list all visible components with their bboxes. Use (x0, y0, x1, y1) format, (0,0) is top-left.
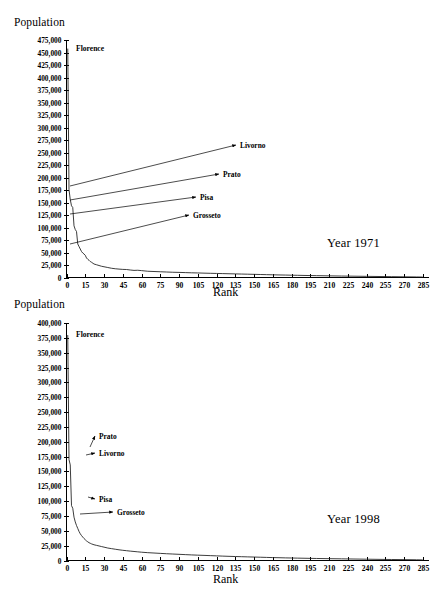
x-tick-label: 255 (380, 564, 392, 573)
x-tick-label: 60 (139, 564, 147, 573)
data-curve-1998 (68, 335, 423, 560)
x-tick-label: 165 (268, 281, 280, 290)
y-tick-label: 325,000 (37, 364, 61, 373)
y-tick-label: 225,000 (37, 161, 61, 170)
y-tick-label: 400,000 (37, 74, 61, 83)
x-tick-label: 225 (343, 564, 355, 573)
annotation-label-prato: Prato (99, 432, 117, 441)
annotation-leader-livorno (86, 453, 95, 455)
x-tick-label: 0 (66, 564, 70, 573)
y-tick-label: 275,000 (37, 136, 61, 145)
x-tick-label: 90 (176, 564, 184, 573)
x-tick-label: 90 (176, 281, 184, 290)
annotation-label-grosseto: Grosseto (117, 508, 145, 517)
y-tick-label: 50,000 (41, 527, 62, 536)
x-tick-label: 180 (287, 564, 299, 573)
y-tick-label: 375,000 (37, 86, 61, 95)
y-tick-label: 225,000 (37, 423, 61, 432)
annotation-leader-prato (90, 436, 95, 447)
y-axis-ticks: 025,00050,00075,000100,000125,000150,000… (37, 36, 69, 283)
y-tick-label: 25,000 (41, 261, 62, 270)
y-tick-label: 100,000 (37, 224, 61, 233)
x-tick-label: 15 (82, 281, 90, 290)
annotation-leader-grosseto (80, 512, 113, 514)
y-tick-label: 125,000 (37, 482, 61, 491)
florence-label: Florence (76, 44, 105, 53)
x-tick-label: 165 (268, 564, 280, 573)
x-tick-label: 60 (139, 281, 147, 290)
x-tick-label: 75 (157, 564, 165, 573)
y-tick-label: 50,000 (41, 249, 62, 258)
plot-area-1971: 025,00050,00075,000100,000125,000150,000… (0, 0, 437, 302)
x-tick-label: 105 (193, 564, 205, 573)
annotation-group-1971: LivornoPratoPisaGrosseto (70, 141, 266, 244)
y-tick-label: 425,000 (37, 61, 61, 70)
y-tick-label: 300,000 (37, 378, 61, 387)
x-tick-label: 135 (230, 564, 242, 573)
x-tick-label: 180 (287, 281, 299, 290)
figure-population-rank: Population Year 1971 Rank 025,00050,0007… (0, 0, 437, 602)
y-tick-label: 25,000 (41, 542, 62, 551)
x-tick-label: 30 (101, 564, 109, 573)
annotation-label-livorno: Livorno (99, 449, 125, 458)
x-tick-label: 285 (418, 281, 430, 290)
x-tick-label: 120 (212, 564, 224, 573)
annotation-leader-livorno (70, 145, 236, 186)
x-tick-label: 240 (362, 564, 374, 573)
y-tick-label: 350,000 (37, 99, 61, 108)
x-tick-label: 240 (362, 281, 374, 290)
y-tick-label: 125,000 (37, 211, 61, 220)
y-axis-ticks: 025,00050,00075,000100,000125,000150,000… (37, 319, 69, 566)
x-tick-label: 0 (66, 281, 70, 290)
y-tick-label: 175,000 (37, 186, 61, 195)
x-tick-label: 105 (193, 281, 205, 290)
y-tick-label: 150,000 (37, 467, 61, 476)
x-tick-label: 120 (212, 281, 224, 290)
x-tick-label: 45 (120, 281, 128, 290)
y-tick-label: 275,000 (37, 393, 61, 402)
chart-1998: Population Year 1998 Rank 025,00050,0007… (0, 295, 437, 602)
y-tick-label: 100,000 (37, 497, 61, 506)
y-tick-label: 375,000 (37, 334, 61, 343)
y-tick-label: 150,000 (37, 199, 61, 208)
annotation-group-1998: PratoLivornoPisaGrosseto (80, 432, 145, 517)
y-tick-label: 200,000 (37, 438, 61, 447)
y-tick-label: 350,000 (37, 349, 61, 358)
x-tick-label: 135 (230, 281, 242, 290)
chart-1971: Population Year 1971 Rank 025,00050,0007… (0, 0, 437, 302)
annotation-label-prato: Prato (223, 170, 241, 179)
x-tick-label: 30 (101, 281, 109, 290)
y-tick-label: 250,000 (37, 408, 61, 417)
annotation-label-livorno: Livorno (240, 141, 266, 150)
x-tick-label: 195 (305, 281, 317, 290)
y-tick-label: 175,000 (37, 453, 61, 462)
x-tick-label: 150 (249, 564, 261, 573)
x-tick-label: 210 (324, 281, 336, 290)
y-tick-label: 75,000 (41, 512, 62, 521)
annotation-leader-pisa (88, 497, 95, 499)
annotation-leader-prato (70, 174, 219, 200)
x-tick-label: 270 (399, 564, 411, 573)
annotation-label-grosseto: Grosseto (193, 211, 221, 220)
x-tick-label: 195 (305, 564, 317, 573)
y-tick-label: 450,000 (37, 49, 61, 58)
y-tick-label: 200,000 (37, 174, 61, 183)
y-tick-label: 250,000 (37, 149, 61, 158)
y-tick-label: 475,000 (37, 36, 61, 45)
x-tick-label: 15 (82, 564, 90, 573)
x-tick-label: 150 (249, 281, 261, 290)
x-tick-label: 45 (120, 564, 128, 573)
x-tick-label: 270 (399, 281, 411, 290)
annotation-leader-pisa (70, 197, 196, 214)
data-curve-1971 (68, 49, 423, 277)
x-tick-label: 210 (324, 564, 336, 573)
y-tick-label: 75,000 (41, 236, 62, 245)
x-tick-label: 255 (380, 281, 392, 290)
florence-label: Florence (76, 330, 105, 339)
x-tick-label: 285 (418, 564, 430, 573)
y-tick-label: 400,000 (37, 319, 61, 328)
x-tick-label: 75 (157, 281, 165, 290)
plot-area-1998: 025,00050,00075,000100,000125,000150,000… (0, 295, 437, 602)
y-tick-label: 0 (58, 274, 62, 283)
y-tick-label: 325,000 (37, 111, 61, 120)
